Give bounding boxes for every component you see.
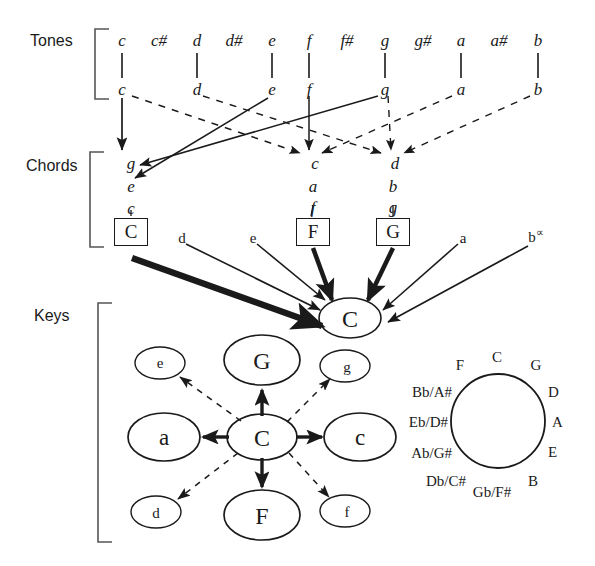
tone-e: e (268, 32, 276, 49)
cof-label-Gb-Fs: Gb/F# (473, 484, 511, 501)
tone-c-sharp: c# (151, 32, 167, 49)
chord-label-b-base: b (528, 229, 536, 245)
chord-G-note-g: g (389, 199, 398, 216)
edge-a-to-keyC (383, 244, 458, 310)
section-label-chords: Chords (26, 158, 78, 174)
tone-natural-b: b (534, 81, 543, 98)
chord-symbol-C[interactable]: C (114, 218, 148, 246)
chord-C-note-g: g (127, 155, 136, 172)
edge-keyC-to-keyd (178, 453, 238, 499)
tone-natural-d: d (193, 81, 202, 98)
cof-label-C: C (492, 349, 502, 366)
edge-Gchord-to-keyC (368, 248, 393, 300)
chord-F-note-a: a (309, 178, 318, 195)
circle-of-fifths-ring (451, 374, 545, 468)
cof-label-E: E (548, 444, 557, 461)
edge-keyC-to-keyg (287, 379, 330, 422)
tone-c: c (118, 32, 126, 49)
chord-F-note-f: f (311, 199, 316, 216)
cof-label-Bb-As: Bb/A# (412, 384, 452, 401)
chord-symbol-G[interactable]: G (376, 218, 410, 246)
tone-natural-a: a (457, 81, 466, 98)
key-label-G[interactable]: G (253, 348, 270, 375)
chord-stack-ticks (131, 205, 393, 216)
key-label-e[interactable]: e (157, 355, 164, 372)
tone-g-sharp: g# (415, 32, 432, 49)
edge-bdim-to-keyC (388, 246, 528, 322)
tone-d-sharp: d# (226, 32, 243, 49)
key-label-F[interactable]: F (255, 503, 268, 530)
diagram-canvas: Tones Chords Keys c c# d d# e f f# g g# … (0, 0, 595, 566)
key-target-label-C[interactable]: C (342, 306, 358, 333)
edge-d-to-Gchord (203, 96, 381, 153)
tones-bracket (95, 29, 109, 99)
chord-C-note-e: e (127, 178, 135, 195)
tone-g: g (381, 32, 390, 49)
edge-keyC-to-keye (180, 377, 241, 421)
edge-g-to-Cchord (140, 96, 378, 165)
chord-label-b-superscript: ∝ (536, 226, 544, 238)
key-label-C[interactable]: C (254, 425, 270, 452)
edge-a-to-Fchord (322, 96, 452, 153)
chord-label-e[interactable]: e (250, 231, 257, 246)
tone-a-sharp: a# (491, 32, 508, 49)
tone-natural-g: g (381, 81, 390, 98)
tone-b: b (534, 32, 543, 49)
key-label-c[interactable]: c (355, 425, 365, 451)
cof-label-Eb-Ds: Eb/D# (409, 414, 448, 431)
chord-label-a[interactable]: a (460, 231, 467, 246)
tone-natural-f: f (307, 81, 312, 98)
cof-label-G: G (531, 357, 542, 374)
tone-a: a (457, 32, 466, 49)
chord-to-key-edges (132, 244, 528, 326)
chord-label-d[interactable]: d (178, 231, 186, 246)
edge-c-to-Fchord (132, 96, 300, 153)
edge-keyC-to-keyf (289, 453, 329, 497)
chord-F-note-c: c (311, 155, 319, 172)
chord-C-note-c: c (127, 200, 135, 217)
cof-label-F: F (456, 357, 464, 374)
tone-natural-e: e (268, 81, 276, 98)
chord-label-b-diminished[interactable]: b∝ (528, 227, 544, 245)
diagram-vector-layer (0, 0, 595, 566)
chords-bracket (90, 152, 104, 247)
cof-label-D: D (548, 384, 559, 401)
key-label-g[interactable]: g (343, 359, 351, 376)
edge-g-to-Gchord (388, 96, 391, 150)
edge-b-to-Gchord (404, 96, 530, 153)
tone-f-sharp: f# (340, 32, 353, 49)
key-label-a[interactable]: a (159, 425, 169, 451)
section-label-tones: Tones (30, 33, 73, 49)
section-label-keys: Keys (34, 308, 70, 324)
cof-label-Db-Cs: Db/C# (426, 473, 466, 490)
tone-f: f (307, 32, 312, 49)
cof-label-Ab-Gs: Ab/G# (411, 445, 452, 462)
edge-Cchord-to-keyC (132, 258, 322, 326)
cof-label-A: A (552, 414, 563, 431)
tone-d: d (193, 32, 202, 49)
key-label-d[interactable]: d (152, 505, 160, 522)
chord-G-note-d: d (391, 155, 400, 172)
chord-symbol-F[interactable]: F (296, 218, 330, 246)
key-label-f[interactable]: f (345, 504, 350, 521)
cof-label-B: B (528, 473, 538, 490)
tone-to-chord-edges (122, 96, 530, 178)
keys-bracket (98, 303, 112, 542)
tone-natural-c: c (118, 81, 126, 98)
chord-G-note-b: b (389, 178, 398, 195)
tone-ticks (122, 53, 538, 78)
